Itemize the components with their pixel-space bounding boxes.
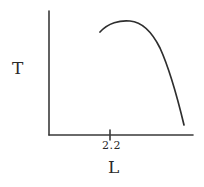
x-axis-label: L (108, 157, 119, 177)
data-curve (100, 21, 184, 125)
y-axis-label: T (12, 58, 23, 78)
x-tick-label: 2.2 (102, 139, 121, 152)
chart-canvas (0, 0, 204, 187)
